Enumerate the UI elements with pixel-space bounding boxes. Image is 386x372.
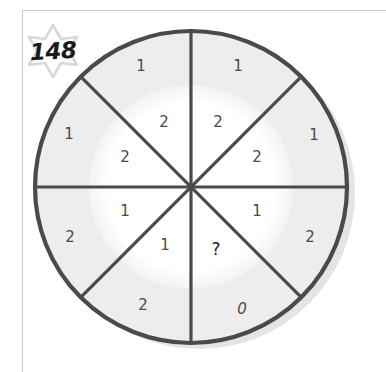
sector-5-outer-value: 2 (65, 228, 75, 246)
sector-7-inner-value: 2 (159, 113, 169, 131)
wheel-puzzle-diagram: 148 212112?012122121 (0, 0, 386, 372)
badge: 148 (22, 22, 84, 80)
sector-6-inner-value: 2 (120, 148, 130, 166)
sector-3-inner-value: ? (211, 239, 220, 259)
sector-6-outer-value: 1 (64, 125, 74, 143)
sector-5-inner-value: 1 (120, 202, 130, 220)
badge-number: 148 (21, 20, 86, 81)
sector-4-outer-value: 2 (138, 296, 148, 314)
sector-4-inner-value: 1 (160, 236, 170, 254)
sector-2-outer-value: 2 (305, 228, 315, 246)
sector-0-outer-value: 1 (233, 57, 243, 75)
sector-1-outer-value: 1 (309, 126, 319, 144)
sector-0-inner-value: 2 (213, 113, 223, 131)
sector-3-outer-value: 0 (237, 300, 247, 318)
sector-1-inner-value: 2 (252, 148, 262, 166)
sector-7-outer-value: 1 (136, 57, 146, 75)
sector-2-inner-value: 1 (252, 202, 262, 220)
